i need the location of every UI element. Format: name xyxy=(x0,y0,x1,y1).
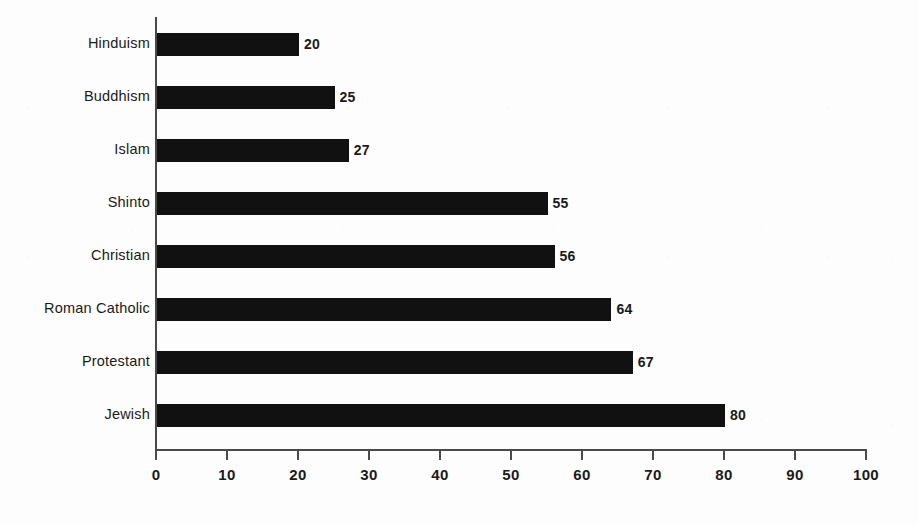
plot-area: 0102030405060708090100 Hinduism20Buddhis… xyxy=(0,0,918,525)
x-tick-mark xyxy=(794,451,796,460)
bar-group: Jewish80 xyxy=(0,404,918,427)
bar-value-label: 56 xyxy=(560,248,576,264)
x-tick-mark xyxy=(368,451,370,460)
bar[interactable] xyxy=(157,298,611,321)
bar-value-label: 55 xyxy=(553,195,569,211)
bar-group: Hinduism20 xyxy=(0,33,918,56)
x-tick-label: 30 xyxy=(360,466,377,483)
x-tick-label: 70 xyxy=(644,466,661,483)
x-tick-mark xyxy=(226,451,228,460)
category-label: Protestant xyxy=(82,353,150,369)
bar-group: Islam27 xyxy=(0,139,918,162)
category-label: Christian xyxy=(91,247,150,263)
bar[interactable] xyxy=(157,245,555,268)
x-tick-label: 10 xyxy=(218,466,235,483)
x-tick-label: 90 xyxy=(786,466,803,483)
bar-value-label: 20 xyxy=(304,36,320,52)
category-label: Shinto xyxy=(108,194,150,210)
x-tick-label: 100 xyxy=(853,466,879,483)
bar-value-label: 27 xyxy=(354,142,370,158)
bar-group: Shinto55 xyxy=(0,192,918,215)
x-tick-label: 20 xyxy=(289,466,306,483)
category-label: Jewish xyxy=(104,406,150,422)
bar-value-label: 67 xyxy=(638,354,654,370)
x-tick-label: 80 xyxy=(715,466,732,483)
bar[interactable] xyxy=(157,351,633,374)
category-label: Hinduism xyxy=(88,35,150,51)
bar-chart: 0102030405060708090100 Hinduism20Buddhis… xyxy=(0,0,918,525)
y-axis-line xyxy=(155,17,157,450)
x-tick-mark xyxy=(652,451,654,460)
x-tick-mark xyxy=(510,451,512,460)
bar-group: Christian56 xyxy=(0,245,918,268)
x-tick-label: 50 xyxy=(502,466,519,483)
category-label: Buddhism xyxy=(84,88,150,104)
x-tick-mark xyxy=(865,451,867,460)
bar[interactable] xyxy=(157,86,335,109)
category-label: Islam xyxy=(114,141,150,157)
bar-group: Protestant67 xyxy=(0,351,918,374)
bar-value-label: 25 xyxy=(340,89,356,105)
x-tick-mark xyxy=(723,451,725,460)
bar-value-label: 64 xyxy=(616,301,632,317)
x-tick-label: 60 xyxy=(573,466,590,483)
x-tick-label: 0 xyxy=(152,466,161,483)
x-tick-mark xyxy=(439,451,441,460)
x-tick-mark xyxy=(297,451,299,460)
bar[interactable] xyxy=(157,192,548,215)
bar-value-label: 80 xyxy=(730,407,746,423)
x-tick-mark xyxy=(155,451,157,460)
category-label: Roman Catholic xyxy=(44,300,150,316)
x-tick-label: 40 xyxy=(431,466,448,483)
bar[interactable] xyxy=(157,33,299,56)
bar[interactable] xyxy=(157,139,349,162)
bar-group: Buddhism25 xyxy=(0,86,918,109)
x-tick-mark xyxy=(581,451,583,460)
bar-group: Roman Catholic64 xyxy=(0,298,918,321)
bar[interactable] xyxy=(157,404,725,427)
